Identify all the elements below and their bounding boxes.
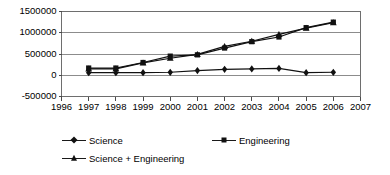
y-axis-tick-label: 1000000 <box>20 27 57 37</box>
x-axis-tick-label: 2006 <box>318 102 348 112</box>
x-axis-tick-label: 1999 <box>128 102 158 112</box>
x-axis-tick-label: 2007 <box>346 102 376 112</box>
x-axis-tick-label: 2000 <box>155 102 185 112</box>
legend-item-science-plus-engineering[interactable]: Science + Engineering <box>62 151 184 165</box>
x-axis-tick-label: 1997 <box>74 102 104 112</box>
chart-legend: Science Engineering Science + Engineerin… <box>0 129 390 175</box>
y-axis-tick-label: 0 <box>51 70 56 80</box>
x-axis-tick-label: 1998 <box>101 102 131 112</box>
y-axis-tick-label: 500000 <box>25 49 57 59</box>
legend-item-science[interactable]: Science <box>62 133 123 147</box>
triangle-marker-icon <box>62 152 86 164</box>
legend-label: Engineering <box>239 135 290 146</box>
data-series-layer <box>85 19 336 76</box>
gridlines <box>62 12 361 97</box>
legend-label: Science <box>89 135 123 146</box>
series-science-engineering <box>85 19 336 71</box>
x-axis-tick-label: 2001 <box>182 102 212 112</box>
x-axis-tick-label: 2002 <box>210 102 240 112</box>
y-axis-tick-label: 1500000 <box>20 6 57 16</box>
x-axis-tick-label: 1996 <box>47 102 77 112</box>
square-marker-icon <box>212 134 236 146</box>
x-axis-tick-label: 2005 <box>291 102 321 112</box>
x-axis-tick-label: 2003 <box>237 102 267 112</box>
x-axis-tick-label: 2004 <box>264 102 294 112</box>
diamond-marker-icon <box>62 134 86 146</box>
legend-label: Science + Engineering <box>89 153 184 164</box>
series-engineering <box>86 20 336 71</box>
x-axis-ticks <box>62 97 361 101</box>
legend-item-engineering[interactable]: Engineering <box>212 133 290 147</box>
y-axis-tick-label: -500000 <box>22 91 57 101</box>
chart-container: 150000010000005000000-500000 19961997199… <box>0 0 390 175</box>
